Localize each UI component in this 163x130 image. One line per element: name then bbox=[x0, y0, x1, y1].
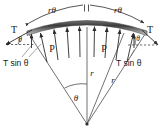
label-angle-center: θ bbox=[74, 93, 79, 103]
arc-tension-diagram-svg: rθ rθ T T θ θ P P T sin θ T sin θ r r θ bbox=[0, 0, 163, 130]
angle-arc-center bbox=[65, 84, 88, 88]
label-pressure-right: P bbox=[101, 43, 107, 54]
label-tension-right: T bbox=[147, 24, 153, 35]
pressure-arrows-right bbox=[94, 27, 134, 63]
arc-length-arrow-left bbox=[29, 5, 85, 24]
label-radius-right: r bbox=[111, 75, 115, 85]
label-angle-left: θ bbox=[18, 35, 22, 44]
label-arc-length-left: rθ bbox=[48, 5, 57, 15]
tension-component-left bbox=[22, 34, 41, 57]
wedge-vertex-point bbox=[85, 122, 88, 125]
label-arc-length-right: rθ bbox=[114, 5, 123, 15]
wedge-line-left bbox=[27, 31, 87, 124]
label-angle-right: θ bbox=[136, 34, 140, 43]
label-component-right: T sin θ bbox=[116, 58, 142, 68]
label-pressure-left: P bbox=[49, 43, 55, 54]
label-radius-center: r bbox=[90, 68, 94, 78]
pressure-arrows-left bbox=[41, 27, 81, 63]
diagram-canvas: rθ rθ T T θ θ P P T sin θ T sin θ r r θ bbox=[0, 0, 163, 130]
label-component-left: T sin θ bbox=[3, 58, 29, 68]
label-tension-left: T bbox=[11, 24, 17, 35]
